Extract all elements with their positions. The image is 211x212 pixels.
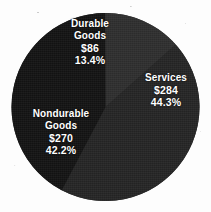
pie-svg — [11, 13, 200, 201]
pie-slice-group — [12, 13, 200, 201]
pie-chart-graphic — [11, 13, 200, 201]
pie-chart-figure: Durable Goods $86 13.4% Services $284 44… — [0, 0, 211, 212]
